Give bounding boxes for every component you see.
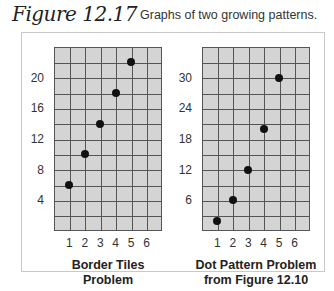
y-tick-label: 20	[20, 71, 44, 85]
grid-line	[55, 216, 161, 217]
data-point	[81, 150, 89, 158]
x-tick-label: 6	[141, 236, 153, 250]
grid-line	[203, 78, 309, 79]
x-tick-label: 2	[79, 236, 91, 250]
x-tick-label: 3	[94, 236, 106, 250]
xlabel-line2: from Figure 12.10	[190, 273, 322, 288]
y-tick-label: 6	[168, 193, 192, 207]
y-tick-label: 16	[20, 101, 44, 115]
y-tick-label: 8	[20, 163, 44, 177]
y-tick-label: 30	[168, 71, 192, 85]
data-point	[260, 125, 268, 133]
grid-line	[203, 186, 309, 187]
x-tick-label: 1	[63, 236, 75, 250]
grid-line	[203, 170, 309, 171]
data-point	[112, 89, 120, 97]
x-tick-label: 3	[242, 236, 254, 250]
figure-label: Figure 12.17	[12, 2, 137, 26]
grid-line	[55, 94, 161, 95]
y-tick-label: 24	[168, 101, 192, 115]
grid-line	[203, 94, 309, 95]
grid-line	[55, 170, 161, 171]
grid-line	[203, 201, 309, 202]
data-point	[275, 74, 283, 82]
x-tick-label: 5	[273, 236, 285, 250]
grid-line	[55, 155, 161, 156]
data-point	[213, 217, 221, 225]
plot-grid	[54, 47, 162, 231]
plot-grid	[202, 47, 310, 231]
x-tick-label: 4	[258, 236, 270, 250]
x-tick-label: 4	[110, 236, 122, 250]
x-tick-label: 1	[211, 236, 223, 250]
xlabel-line1: Border Tiles	[54, 258, 162, 273]
border-tiles-xlabel-2: Problem	[54, 273, 162, 288]
data-point	[244, 166, 252, 174]
grid-line	[203, 124, 309, 125]
y-tick-label: 12	[168, 163, 192, 177]
dot-pattern-xlabel-2: from Figure 12.10	[190, 273, 322, 288]
grid-line	[55, 124, 161, 125]
dot-pattern-xlabel: Dot Pattern Problem	[190, 258, 322, 273]
data-point	[127, 58, 135, 66]
grid-line	[203, 155, 309, 156]
grid-line	[203, 140, 309, 141]
figure-caption: Graphs of two growing patterns.	[140, 8, 317, 22]
grid-line	[55, 78, 161, 79]
border-tiles-xlabel: Border Tiles	[54, 258, 162, 273]
data-point	[96, 120, 104, 128]
data-point	[65, 181, 73, 189]
data-point	[229, 196, 237, 204]
grid-line	[203, 63, 309, 64]
y-tick-label: 4	[20, 193, 44, 207]
grid-line	[55, 109, 161, 110]
xlabel-line1: Dot Pattern Problem	[190, 258, 322, 273]
x-tick-label: 6	[289, 236, 301, 250]
xlabel-line2: Problem	[54, 273, 162, 288]
x-tick-label: 5	[125, 236, 137, 250]
grid-line	[55, 201, 161, 202]
grid-line	[203, 109, 309, 110]
y-tick-label: 18	[168, 132, 192, 146]
x-tick-label: 2	[227, 236, 239, 250]
grid-line	[55, 140, 161, 141]
y-tick-label: 12	[20, 132, 44, 146]
grid-line	[55, 63, 161, 64]
